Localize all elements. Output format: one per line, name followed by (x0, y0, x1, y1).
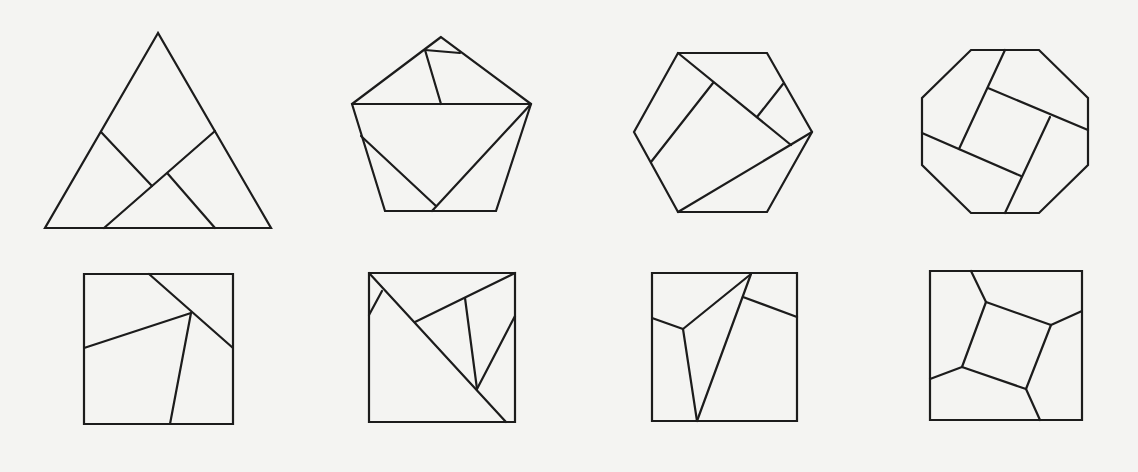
square-dissection-4 (930, 271, 1082, 420)
cut-line (1051, 311, 1082, 325)
cut-line (1026, 389, 1040, 420)
outline (634, 53, 812, 212)
cut-line (425, 50, 441, 104)
cut-line (743, 297, 797, 317)
figure-group (45, 33, 1088, 424)
outline (45, 33, 271, 228)
cut-line (369, 273, 506, 422)
cut-line (757, 84, 783, 117)
cut-line (678, 132, 812, 212)
cut-line (425, 50, 460, 53)
cut-line (465, 298, 477, 389)
pentagon-dissection (352, 37, 531, 211)
cut-line (477, 316, 515, 389)
cut-line (84, 313, 191, 348)
cut-line (988, 88, 1088, 130)
square-dissection-3 (652, 273, 797, 421)
cut-line (101, 132, 152, 186)
octagon-dissection (922, 50, 1088, 213)
outline (922, 50, 1088, 213)
cut-line (1005, 117, 1050, 213)
cut-line (1026, 325, 1051, 389)
cut-line (922, 133, 1021, 176)
cut-line (652, 318, 683, 329)
cut-line (962, 302, 986, 367)
outline (84, 274, 233, 424)
cut-line (432, 104, 531, 211)
cut-line (651, 83, 713, 162)
cut-line (104, 131, 215, 228)
cut-line (369, 291, 382, 315)
outline (352, 37, 531, 211)
square-dissection-1 (84, 274, 233, 424)
square-dissection-2 (369, 273, 515, 422)
cut-line (170, 313, 191, 424)
cut-line (971, 271, 986, 302)
cut-line (149, 274, 233, 348)
outline (930, 271, 1082, 420)
cut-line (959, 50, 1005, 149)
cut-line (986, 302, 1051, 325)
cut-line (962, 367, 1026, 389)
triangle-dissection (45, 33, 271, 228)
cut-line (168, 174, 215, 228)
hexagon-dissection (634, 53, 812, 212)
cut-line (683, 329, 697, 421)
cut-line (930, 367, 962, 379)
dissection-figure (0, 0, 1138, 472)
